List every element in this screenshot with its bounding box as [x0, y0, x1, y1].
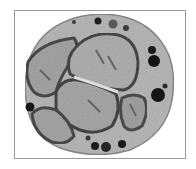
granule [123, 25, 129, 31]
granule [86, 136, 91, 141]
nucleus [27, 34, 147, 143]
granule [163, 84, 168, 89]
granule [95, 18, 102, 25]
granule [109, 20, 118, 29]
granule [148, 46, 156, 54]
granule [72, 20, 76, 24]
granule [148, 55, 160, 67]
cell-micrograph [0, 0, 196, 169]
granule [26, 103, 35, 112]
granule [118, 140, 126, 148]
granule [151, 88, 165, 102]
granule [101, 142, 111, 152]
granule [91, 142, 99, 150]
